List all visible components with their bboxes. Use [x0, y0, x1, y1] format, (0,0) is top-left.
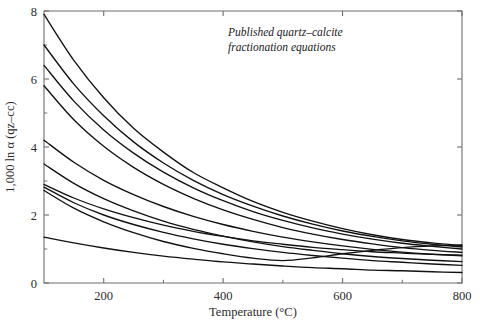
- y-tick-label: 2: [31, 209, 37, 223]
- y-axis-label: 1,000 ln α (qz–cc): [3, 101, 17, 192]
- y-tick-label: 8: [31, 5, 37, 19]
- x-tick-label: 400: [214, 289, 233, 303]
- y-tick-label: 4: [31, 141, 38, 155]
- y-tick-label: 0: [31, 277, 37, 291]
- figure-container: 20040060080002468 Temperature (°C) 1,000…: [0, 0, 480, 326]
- annotation-line-2: fractionation equations: [228, 41, 336, 54]
- y-tick-label: 6: [31, 73, 37, 87]
- quartz-calcite-fractionation-chart: 20040060080002468 Temperature (°C) 1,000…: [0, 0, 480, 326]
- x-axis-label: Temperature (°C): [209, 305, 297, 319]
- x-tick-label: 600: [333, 289, 352, 303]
- x-tick-label: 200: [94, 289, 113, 303]
- x-tick-label: 800: [453, 289, 472, 303]
- annotation-line-1: Published quartz–calcite: [227, 26, 343, 39]
